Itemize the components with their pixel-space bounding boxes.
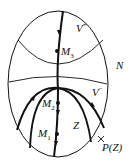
arrow-icon — [90, 102, 95, 107]
point-m2 — [56, 101, 60, 105]
point-m1 — [55, 132, 59, 136]
label-m2: M2 — [42, 98, 55, 112]
diagram — [0, 0, 136, 164]
label-m3: M3 — [61, 46, 74, 60]
point-m3 — [55, 49, 59, 53]
label-n: N — [116, 60, 123, 71]
v-minus-curve — [17, 88, 104, 130]
label-v-minus: V− — [92, 86, 103, 98]
label-m1: M1 — [38, 128, 51, 142]
label-pz: P(Z) — [102, 142, 122, 153]
label-z: Z — [73, 120, 79, 131]
label-v-plus: V+ — [76, 22, 87, 34]
